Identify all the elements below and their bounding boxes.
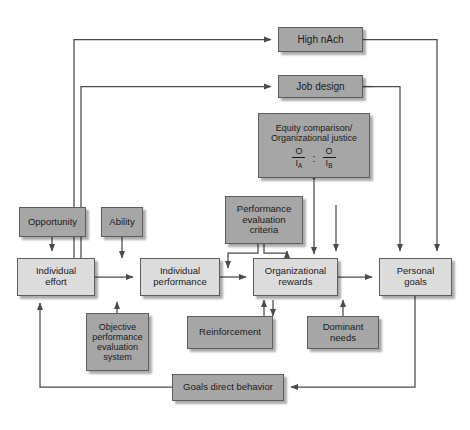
node-label: Equity comparison/Organizational justice — [271, 123, 357, 143]
node-dominant-needs[interactable]: Dominantneeds — [307, 316, 379, 349]
node-equity-comparison[interactable]: Equity comparison/Organizational justice… — [258, 113, 370, 178]
equity-ratio-person-a: O IA — [292, 147, 305, 168]
node-individual-performance[interactable]: Individualperformance — [140, 258, 220, 296]
node-label: Organizationalrewards — [262, 266, 329, 287]
node-personal-goals[interactable]: Personalgoals — [379, 258, 452, 296]
node-label: Opportunity — [25, 217, 80, 228]
ratio-separator: : — [312, 152, 315, 164]
node-high-nach[interactable]: High nAch — [278, 27, 363, 52]
outcomes-b: O — [323, 147, 336, 158]
node-label: Job design — [293, 81, 347, 92]
outcomes-a: O — [292, 147, 305, 158]
inputs-a: IA — [296, 158, 303, 168]
node-reinforcement[interactable]: Reinforcement — [187, 316, 273, 349]
node-goals-direct-behavior[interactable]: Goals direct behavior — [172, 374, 284, 401]
node-label: Reinforcement — [196, 327, 264, 338]
node-label: Individualeffort — [33, 266, 79, 287]
equity-ratio: O IA : O IB — [292, 147, 335, 168]
node-performance-evaluation-criteria[interactable]: Performanceevaluationcriteria — [225, 196, 303, 244]
node-job-design[interactable]: Job design — [278, 75, 363, 98]
edge-criteria-to-org-rewards — [264, 244, 287, 253]
node-label: Personalgoals — [394, 266, 438, 287]
node-label: Ability — [106, 217, 137, 228]
node-label: Goals direct behavior — [180, 382, 276, 393]
equity-ratio-person-b: O IB — [323, 147, 336, 168]
node-individual-effort[interactable]: Individualeffort — [17, 258, 95, 296]
node-label: Objectiveperformanceevaluationsystem — [89, 322, 146, 362]
node-label: Dominantneeds — [320, 322, 367, 343]
node-opportunity[interactable]: Opportunity — [19, 207, 86, 237]
node-label: Individualperformance — [150, 266, 209, 287]
motivation-flowchart: High nAch Job design Equity comparison/O… — [0, 0, 470, 430]
node-label: High nAch — [294, 34, 346, 45]
node-label: Performanceevaluationcriteria — [234, 204, 294, 236]
inputs-b: IB — [326, 158, 333, 168]
node-ability[interactable]: Ability — [101, 207, 143, 237]
node-objective-performance-evaluation-system[interactable]: Objectiveperformanceevaluationsystem — [86, 313, 149, 371]
node-organizational-rewards[interactable]: Organizationalrewards — [253, 258, 338, 296]
